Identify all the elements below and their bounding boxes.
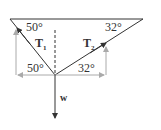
force-diagram: 50° 32° 50° 32° T1 T2 w (0, 0, 161, 130)
angle-right-top: 32° (105, 20, 122, 34)
angle-left-bottom: 50° (27, 61, 44, 75)
t1-label: T1 (35, 36, 47, 52)
angle-left-top: 50° (26, 20, 43, 34)
angle-right-bottom: 32° (78, 61, 95, 75)
w-label: w (60, 92, 68, 103)
t2-label: T2 (83, 36, 95, 52)
